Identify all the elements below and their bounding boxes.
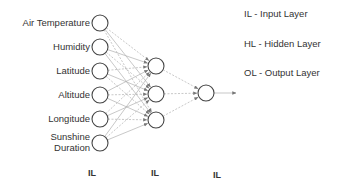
layer-label-output: IL xyxy=(213,170,221,180)
input-label-4: Longitude xyxy=(48,113,90,124)
edge-input-2-hidden-2 xyxy=(106,76,149,114)
hidden-node-0 xyxy=(148,58,164,74)
input-label-2: Latitude xyxy=(56,65,90,76)
input-label-0: Air Temperature xyxy=(23,17,90,28)
input-node-4 xyxy=(92,111,108,127)
input-label-5-line2: Duration xyxy=(50,142,90,153)
edge-input-1-hidden-0 xyxy=(108,50,148,64)
legend-input-layer: IL - Input Layer xyxy=(244,8,308,19)
edge-hidden-1-output xyxy=(164,93,197,94)
connection-edges xyxy=(104,28,236,140)
edge-hidden-2-output xyxy=(163,97,198,116)
input-label-3: Altitude xyxy=(58,89,90,100)
input-node-1 xyxy=(92,39,108,55)
legend-output-layer: OL - Output Layer xyxy=(244,67,320,78)
neural-network-diagram xyxy=(0,0,337,189)
layer-label-input: IL xyxy=(88,168,96,178)
input-label-5: Sunshine Duration xyxy=(50,131,90,153)
edge-input-5-hidden-2 xyxy=(107,123,147,140)
network-nodes xyxy=(92,15,214,151)
output-node xyxy=(198,85,214,101)
input-node-0 xyxy=(92,15,108,31)
hidden-node-2 xyxy=(148,112,164,128)
edge-input-2-hidden-0 xyxy=(108,67,147,70)
input-node-3 xyxy=(92,87,108,103)
edge-hidden-0-output xyxy=(163,70,198,89)
legend-hidden-layer: HL - Hidden Layer xyxy=(244,38,321,49)
input-label-1: Humidity xyxy=(53,41,90,52)
edge-input-0-hidden-0 xyxy=(106,28,149,61)
layer-label-hidden: IL xyxy=(151,168,159,178)
input-label-5-line1: Sunshine xyxy=(50,131,90,142)
edge-input-0-hidden-1 xyxy=(105,29,150,87)
hidden-node-1 xyxy=(148,86,164,102)
input-node-5 xyxy=(92,135,108,151)
input-node-2 xyxy=(92,63,108,79)
